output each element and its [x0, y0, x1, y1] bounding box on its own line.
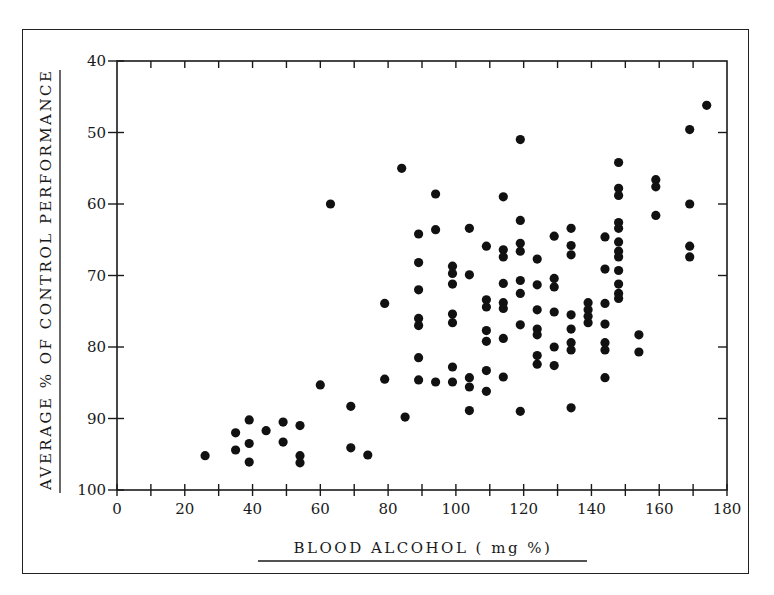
data-point: [499, 334, 508, 343]
y-tick-label: 80: [87, 338, 106, 356]
data-point: [516, 135, 525, 144]
y-axis-title-group: AVERAGE % OF CONTROL PERFORMANCE: [37, 69, 60, 494]
x-axis-title: BLOOD ALCOHOL ( mg %): [294, 539, 553, 557]
data-point: [245, 415, 254, 424]
data-point: [533, 330, 542, 339]
data-point: [600, 320, 609, 329]
x-tick-label: 0: [112, 500, 122, 518]
data-point: [614, 280, 623, 289]
x-tick-label: 180: [713, 500, 742, 518]
data-point: [499, 304, 508, 313]
x-tick-label: 20: [175, 500, 194, 518]
plot-area-border: [117, 61, 727, 490]
data-point: [295, 421, 304, 430]
data-point: [499, 279, 508, 288]
scatter-plot: AVERAGE % OF CONTROL PERFORMANCE 0204060…: [0, 0, 774, 595]
data-point: [651, 211, 660, 220]
x-tick-label: 40: [243, 500, 262, 518]
data-point: [465, 382, 474, 391]
data-point: [482, 337, 491, 346]
data-point: [465, 406, 474, 415]
y-tick-label: 50: [87, 124, 106, 142]
x-tick-label: 100: [442, 500, 471, 518]
data-point: [380, 375, 389, 384]
data-point: [614, 191, 623, 200]
data-point: [482, 366, 491, 375]
y-axis-title: AVERAGE % OF CONTROL PERFORMANCE: [37, 69, 55, 492]
data-point: [550, 274, 559, 283]
data-point: [550, 361, 559, 370]
data-point: [245, 458, 254, 467]
data-point: [702, 101, 711, 110]
data-point: [431, 225, 440, 234]
data-point: [614, 252, 623, 261]
data-point: [567, 250, 576, 259]
x-tick-label: 80: [379, 500, 398, 518]
data-point: [516, 239, 525, 248]
data-point: [448, 269, 457, 278]
data-point: [279, 418, 288, 427]
data-point: [516, 276, 525, 285]
data-point: [516, 320, 525, 329]
data-point: [516, 216, 525, 225]
data-point: [614, 224, 623, 233]
data-point: [584, 318, 593, 327]
data-point: [550, 342, 559, 351]
data-point: [414, 353, 423, 362]
data-point: [685, 199, 694, 208]
data-point: [380, 299, 389, 308]
data-point: [231, 445, 240, 454]
data-point: [448, 362, 457, 371]
data-point: [651, 182, 660, 191]
plot-axes: 020406080100120140160180405060708090100: [77, 52, 741, 518]
data-point: [414, 375, 423, 384]
data-point: [231, 428, 240, 437]
data-point: [346, 402, 355, 411]
data-point: [533, 280, 542, 289]
data-point: [295, 458, 304, 467]
data-point: [201, 451, 210, 460]
data-point: [346, 443, 355, 452]
data-point: [533, 351, 542, 360]
data-point: [401, 413, 410, 422]
data-point: [685, 125, 694, 134]
data-point: [600, 345, 609, 354]
data-point: [414, 285, 423, 294]
data-point: [431, 189, 440, 198]
x-tick-label: 160: [645, 500, 674, 518]
data-point: [431, 377, 440, 386]
data-point: [533, 305, 542, 314]
y-tick-label: 70: [87, 267, 106, 285]
data-point: [614, 294, 623, 303]
x-tick-label: 120: [509, 500, 538, 518]
data-point: [614, 266, 623, 275]
data-point: [397, 164, 406, 173]
y-tick-label: 40: [87, 52, 106, 70]
data-point: [567, 325, 576, 334]
data-point: [279, 438, 288, 447]
data-point: [482, 302, 491, 311]
data-point: [448, 310, 457, 319]
data-point: [600, 265, 609, 274]
x-tick-label: 60: [311, 500, 330, 518]
data-point: [448, 377, 457, 386]
data-point: [567, 310, 576, 319]
data-point: [448, 318, 457, 327]
data-point: [316, 380, 325, 389]
data-point: [414, 321, 423, 330]
data-point: [482, 326, 491, 335]
data-point: [600, 232, 609, 241]
data-point: [482, 387, 491, 396]
data-point: [614, 237, 623, 246]
y-tick-label: 100: [77, 481, 106, 499]
data-point: [414, 229, 423, 238]
data-point: [685, 242, 694, 251]
data-point: [262, 426, 271, 435]
data-point: [567, 345, 576, 354]
data-point: [245, 439, 254, 448]
data-point: [448, 280, 457, 289]
data-point: [516, 289, 525, 298]
data-point: [550, 307, 559, 316]
data-point: [414, 258, 423, 267]
data-point: [634, 330, 643, 339]
